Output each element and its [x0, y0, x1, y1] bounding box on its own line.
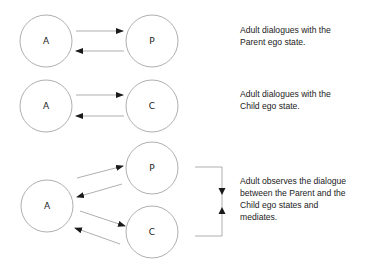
- caption-adult-child: Adult dialogues with the Child ego state…: [240, 88, 365, 112]
- mediation-bracket: [195, 167, 226, 236]
- node-adult-label: A: [43, 101, 50, 111]
- arrowhead-down-icon: [219, 188, 226, 195]
- caption-line: Child ego states and: [240, 199, 365, 211]
- row-adult-mediates: A P C: [21, 142, 226, 258]
- row-adult-parent: A P: [20, 15, 178, 67]
- arrowhead-up-icon: [219, 207, 226, 214]
- node-child-label: C: [149, 227, 155, 237]
- node-parent-label: P: [149, 36, 155, 46]
- caption-adult-mediates: Adult observes the dialogue between the …: [240, 175, 365, 223]
- caption-line: Adult observes the dialogue: [240, 175, 365, 187]
- node-parent-label: P: [149, 163, 155, 173]
- row-adult-child: A C: [20, 80, 178, 132]
- arrow-adult-to-child: [80, 211, 125, 226]
- arrow-child-to-adult: [75, 228, 120, 244]
- caption-adult-parent: Adult dialogues with the Parent ego stat…: [240, 24, 365, 48]
- arrow-adult-to-parent: [77, 166, 123, 178]
- node-adult-label: A: [44, 201, 51, 211]
- caption-line: Parent ego state.: [240, 36, 365, 48]
- caption-line: Adult dialogues with the: [240, 24, 365, 36]
- caption-line: Child ego state.: [240, 100, 365, 112]
- caption-line: mediates.: [240, 211, 365, 223]
- caption-line: between the Parent and the: [240, 187, 365, 199]
- node-child-label: C: [149, 101, 155, 111]
- node-adult-label: A: [43, 36, 50, 46]
- caption-line: Adult dialogues with the: [240, 88, 365, 100]
- arrow-parent-to-adult: [77, 184, 122, 197]
